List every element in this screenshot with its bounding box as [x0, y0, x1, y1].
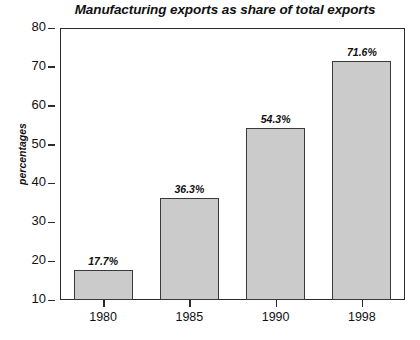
- bar-chart-figure: Manufacturing exports as share of total …: [0, 0, 420, 340]
- y-tick-mark: [48, 222, 55, 224]
- x-tick-label: 1998: [322, 310, 402, 324]
- y-tick-mark: [48, 144, 55, 146]
- y-tick-label: 80: [6, 19, 46, 34]
- x-tick-mark: [276, 300, 278, 307]
- y-axis-title: percentages: [16, 94, 28, 214]
- y-tick-mark: [48, 28, 55, 30]
- bar: [246, 128, 305, 300]
- y-tick-mark: [48, 105, 55, 107]
- bar-value-label: 36.3%: [149, 183, 229, 195]
- y-tick-label: 50: [6, 136, 46, 151]
- y-tick-mark: [48, 300, 55, 302]
- y-tick-label: 10: [6, 291, 46, 306]
- y-tick-label: 30: [6, 213, 46, 228]
- y-tick-label: 20: [6, 252, 46, 267]
- x-tick-label: 1980: [63, 310, 143, 324]
- y-tick-mark: [48, 261, 55, 263]
- y-tick-label: 60: [6, 97, 46, 112]
- chart-title: Manufacturing exports as share of total …: [40, 2, 410, 17]
- bar: [74, 270, 133, 300]
- x-tick-label: 1990: [236, 310, 316, 324]
- y-tick-label: 40: [6, 174, 46, 189]
- y-tick-label: 70: [6, 58, 46, 73]
- x-tick-mark: [362, 300, 364, 307]
- bar-value-label: 17.7%: [63, 255, 143, 267]
- y-tick-mark: [48, 66, 55, 68]
- bar-value-label: 54.3%: [236, 113, 316, 125]
- x-tick-mark: [189, 300, 191, 307]
- bar-value-label: 71.6%: [322, 46, 402, 58]
- x-tick-mark: [103, 300, 105, 307]
- y-tick-mark: [48, 183, 55, 185]
- bar: [160, 198, 219, 300]
- bar: [332, 61, 391, 300]
- x-tick-label: 1985: [149, 310, 229, 324]
